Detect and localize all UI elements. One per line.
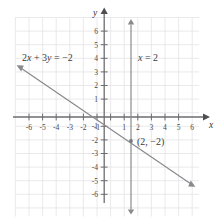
x-tick-label: 5 — [177, 123, 181, 132]
y-tick-label: -2 — [92, 136, 99, 145]
vert-eq-rest: = 2 — [142, 52, 158, 63]
y-tick-label: 1 — [94, 95, 98, 104]
diagonal-line-end-arrowhead — [188, 180, 195, 186]
intersection-point-marker — [129, 139, 133, 143]
x-tick-label: 3 — [150, 123, 154, 132]
y-tick-label: 6 — [94, 27, 98, 36]
x-tick-label: 4 — [163, 123, 167, 132]
y-tick-label: -1 — [92, 122, 99, 131]
y-tick-label: -5 — [92, 177, 99, 186]
y-tick-label: 4 — [94, 54, 98, 63]
coordinate-graph-figure: -6 -5 -4 -3 -2 -1 1 2 3 4 5 6 6 5 4 3 2 … — [0, 0, 221, 217]
y-tick-label: 2 — [94, 81, 98, 90]
diagonal-line-start-arrowhead — [17, 65, 24, 71]
intersection-point-label: (2, −2) — [137, 136, 164, 148]
graph-canvas: -6 -5 -4 -3 -2 -1 1 2 3 4 5 6 6 5 4 3 2 … — [0, 0, 221, 217]
y-tick-label: -6 — [92, 190, 99, 199]
x-tick-labels: -6 -5 -4 -3 -2 -1 1 2 3 4 5 6 — [26, 123, 194, 132]
eq-equals-neg2: = −2 — [52, 52, 73, 63]
x-tick-label: -2 — [80, 123, 87, 132]
y-axis-arrowhead — [101, 8, 108, 15]
eq-plus-3: + 3 — [31, 52, 47, 63]
vertical-line-top-arrowhead — [128, 19, 134, 25]
x-axis-label: x — [208, 120, 214, 130]
y-tick-label: -3 — [92, 149, 99, 158]
x-tick-label: 6 — [190, 123, 194, 132]
x-tick-label: -5 — [39, 123, 46, 132]
x-tick-label: -3 — [67, 123, 74, 132]
y-tick-label: 3 — [94, 68, 98, 77]
x-tick-label: 2 — [136, 123, 140, 132]
x-tick-label: 1 — [122, 123, 126, 132]
vertical-line-bottom-arrowhead — [128, 210, 134, 215]
axes — [13, 14, 203, 203]
x-tick-label: -6 — [26, 123, 33, 132]
x-tick-label: -4 — [53, 123, 60, 132]
y-axis-label: y — [92, 8, 98, 18]
vertical-line-equation-label: x = 2 — [137, 52, 158, 63]
y-tick-label: 5 — [94, 41, 98, 50]
diagonal-line-equation-label: 2x + 3y = −2 — [22, 52, 73, 63]
y-tick-label: -4 — [92, 163, 99, 172]
